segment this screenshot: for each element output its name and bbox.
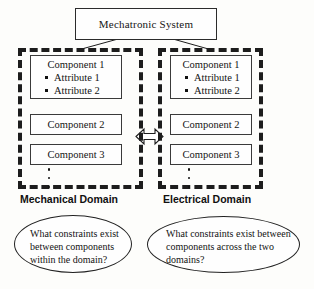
attribute-list: Attribute 1 Attribute 2 [31, 71, 121, 97]
attribute-list: Attribute 1 Attribute 2 [171, 71, 251, 97]
attribute-item: Attribute 1 [185, 71, 251, 84]
component-box-electrical-1: Component 1 Attribute 1 Attribute 2 [170, 55, 252, 99]
component-name: Component 3 [48, 149, 105, 160]
component-box-mechanical-1: Component 1 Attribute 1 Attribute 2 [30, 55, 122, 99]
diagram-canvas: Mechatronic System Component 1 Attribute… [0, 0, 314, 289]
component-name: Component 3 [183, 149, 240, 160]
vertical-ellipsis-icon-electrical [184, 168, 194, 188]
domain-label-electrical: Electrical Domain [163, 193, 251, 205]
attribute-item: Attribute 2 [45, 84, 121, 97]
question-ellipse-within-domain: What constraints exist between component… [14, 215, 132, 273]
component-box-mechanical-2: Component 2 [30, 114, 122, 135]
root-system-label: Mechatronic System [99, 18, 193, 30]
attribute-item: Attribute 1 [45, 71, 121, 84]
question-text: What constraints exist between component… [166, 227, 294, 266]
component-name: Component 2 [183, 119, 240, 130]
component-name: Component 1 [31, 56, 121, 70]
component-name: Component 1 [171, 56, 251, 70]
question-text: What constraints exist between component… [30, 227, 126, 266]
vertical-ellipsis-icon-mechanical [44, 168, 54, 188]
component-name: Component 2 [48, 119, 105, 130]
domain-label-mechanical: Mechanical Domain [20, 193, 118, 205]
component-box-mechanical-3: Component 3 [30, 144, 122, 165]
component-box-electrical-3: Component 3 [170, 144, 252, 165]
root-system-box: Mechatronic System [75, 8, 217, 40]
question-ellipse-across-domains: What constraints exist between component… [147, 216, 300, 273]
attribute-item: Attribute 2 [185, 84, 251, 97]
component-box-electrical-2: Component 2 [170, 114, 252, 135]
